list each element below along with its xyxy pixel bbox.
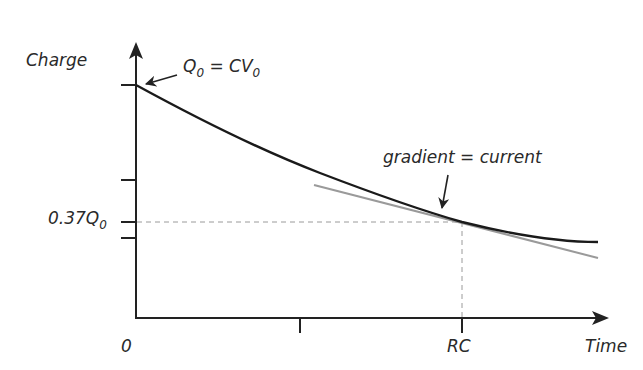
rc-label: RC [447, 336, 471, 356]
q0-annotation: Q0 = CV0 [183, 56, 261, 80]
tangent-annotation: gradient = current [383, 147, 543, 167]
y-axis-label: Charge [26, 50, 87, 70]
axes [121, 42, 609, 333]
x-axis-label: Time [585, 336, 627, 356]
gradient-pointer-arrow-icon [442, 175, 448, 208]
origin-label: 0 [121, 336, 132, 356]
q0-pointer-arrow-icon [146, 75, 177, 84]
y-marker-label: 0.37Q0 [48, 208, 107, 232]
discharge-diagram: Charge Time 0 RC Q0 = CV0 0.37Q0 gradien… [0, 0, 643, 370]
guide-lines [137, 222, 462, 317]
